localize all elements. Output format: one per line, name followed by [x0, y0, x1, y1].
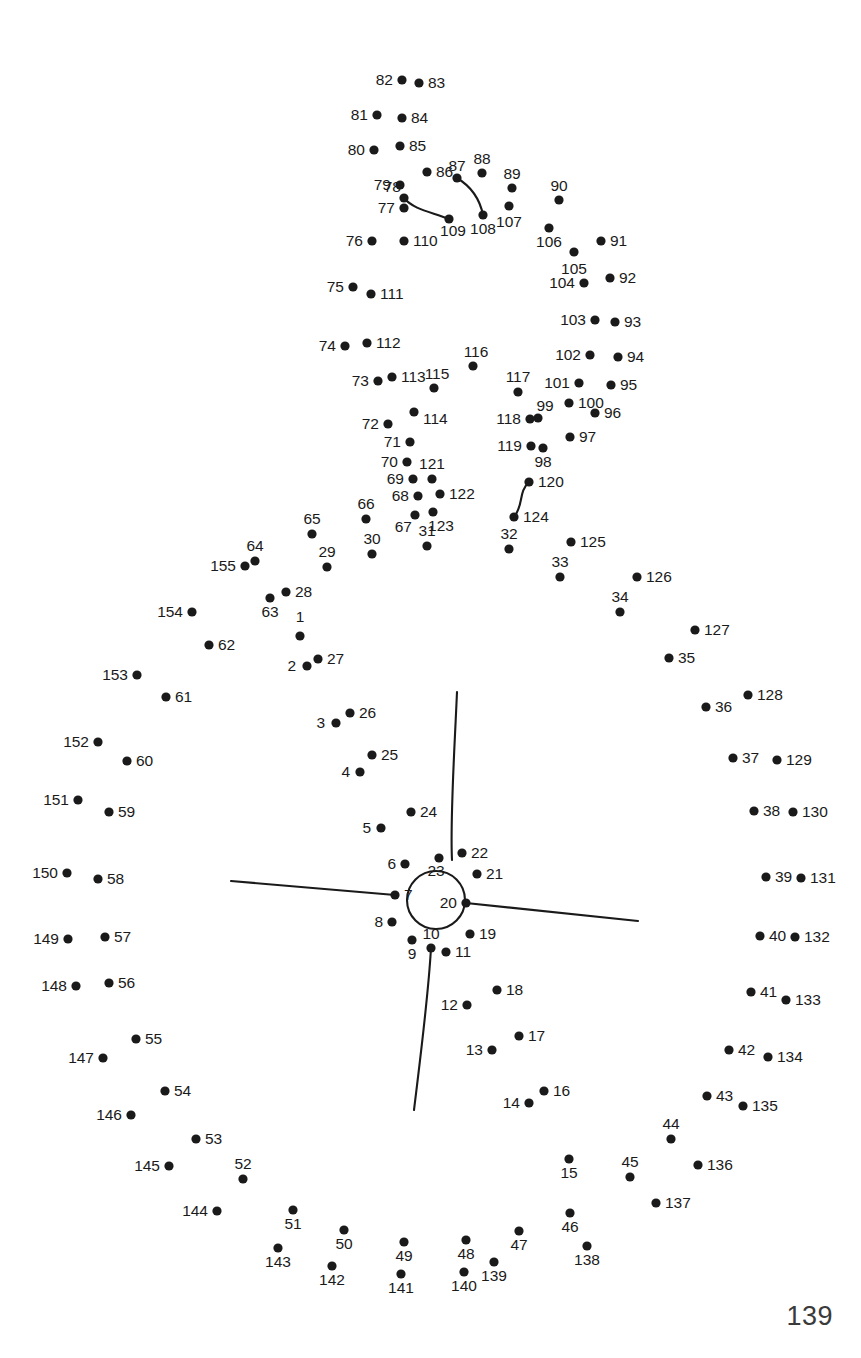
- dot-marker[interactable]: [554, 195, 563, 204]
- dot-marker[interactable]: [238, 1174, 247, 1183]
- dot-marker[interactable]: [413, 491, 422, 500]
- dot-marker[interactable]: [367, 549, 376, 558]
- dot-marker[interactable]: [399, 203, 408, 212]
- dot-marker[interactable]: [71, 981, 80, 990]
- dot-marker[interactable]: [191, 1134, 200, 1143]
- dot-marker[interactable]: [104, 978, 113, 987]
- dot-marker[interactable]: [693, 1160, 702, 1169]
- dot-marker[interactable]: [281, 587, 290, 596]
- dot-marker[interactable]: [422, 167, 431, 176]
- dot-marker[interactable]: [452, 173, 461, 182]
- puzzle-dot[interactable]: 23: [427, 853, 444, 879]
- dot-marker[interactable]: [605, 273, 614, 282]
- puzzle-dot[interactable]: 89: [503, 165, 520, 193]
- dot-marker[interactable]: [340, 341, 349, 350]
- puzzle-dot[interactable]: 3: [316, 714, 340, 731]
- puzzle-dot[interactable]: 42: [724, 1041, 755, 1058]
- dot-marker[interactable]: [441, 947, 450, 956]
- puzzle-dot[interactable]: 29: [318, 543, 335, 572]
- dot-marker[interactable]: [461, 898, 470, 907]
- puzzle-dot[interactable]: 32: [500, 525, 517, 554]
- puzzle-dot[interactable]: 73: [352, 372, 383, 389]
- dot-marker[interactable]: [564, 1154, 573, 1163]
- puzzle-dot[interactable]: 102: [555, 346, 594, 363]
- puzzle-dot[interactable]: 152: [63, 733, 102, 750]
- puzzle-dot[interactable]: 58: [93, 870, 124, 887]
- dot-marker[interactable]: [457, 848, 466, 857]
- puzzle-dot[interactable]: 52: [234, 1155, 251, 1184]
- dot-marker[interactable]: [345, 708, 354, 717]
- dot-marker[interactable]: [565, 432, 574, 441]
- dot-marker[interactable]: [625, 1172, 634, 1181]
- puzzle-dot[interactable]: 68: [392, 487, 423, 504]
- puzzle-dot[interactable]: 57: [100, 928, 131, 945]
- puzzle-dot[interactable]: 141: [388, 1269, 414, 1296]
- dot-marker[interactable]: [566, 537, 575, 546]
- puzzle-dot[interactable]: 148: [41, 977, 80, 994]
- dot-marker[interactable]: [63, 934, 72, 943]
- puzzle-dot[interactable]: 65: [303, 510, 320, 539]
- dot-marker[interactable]: [399, 236, 408, 245]
- dot-marker[interactable]: [288, 1205, 297, 1214]
- dot-marker[interactable]: [250, 556, 259, 565]
- puzzle-dot[interactable]: 106: [536, 223, 562, 250]
- puzzle-dot[interactable]: 59: [104, 803, 135, 820]
- dot-marker[interactable]: [514, 1226, 523, 1235]
- puzzle-dot[interactable]: 99: [533, 397, 553, 423]
- dot-marker[interactable]: [98, 1053, 107, 1062]
- dot-marker[interactable]: [400, 859, 409, 868]
- puzzle-dot[interactable]: 44: [662, 1115, 680, 1144]
- dot-marker[interactable]: [544, 223, 553, 232]
- dot-marker[interactable]: [724, 1045, 733, 1054]
- dot-marker[interactable]: [387, 372, 396, 381]
- dot-marker[interactable]: [104, 807, 113, 816]
- puzzle-dot[interactable]: 146: [96, 1106, 135, 1123]
- dot-marker[interactable]: [187, 607, 196, 616]
- puzzle-dot[interactable]: 22: [457, 844, 488, 861]
- dot-marker[interactable]: [743, 690, 752, 699]
- puzzle-dot[interactable]: 70: [381, 453, 412, 470]
- dot-marker[interactable]: [487, 1045, 496, 1054]
- puzzle-dot[interactable]: 82: [376, 71, 407, 88]
- dot-marker[interactable]: [295, 631, 304, 640]
- puzzle-dot[interactable]: 130: [788, 803, 828, 820]
- dot-marker[interactable]: [313, 654, 322, 663]
- puzzle-dot[interactable]: 139: [481, 1257, 507, 1284]
- puzzle-dot[interactable]: 140: [451, 1267, 477, 1294]
- puzzle-dot[interactable]: 100: [564, 394, 604, 411]
- dot-marker[interactable]: [395, 180, 404, 189]
- puzzle-dot[interactable]: 98: [534, 443, 551, 470]
- dot-marker[interactable]: [204, 640, 213, 649]
- puzzle-dot[interactable]: 37: [728, 749, 759, 766]
- dot-marker[interactable]: [565, 1208, 574, 1217]
- dot-marker[interactable]: [690, 625, 699, 634]
- dot-marker[interactable]: [414, 78, 423, 87]
- dot-marker[interactable]: [613, 352, 622, 361]
- puzzle-dot[interactable]: 149: [33, 930, 72, 947]
- puzzle-dot[interactable]: 55: [131, 1030, 162, 1047]
- puzzle-dot[interactable]: 60: [122, 752, 153, 769]
- dot-marker[interactable]: [160, 1086, 169, 1095]
- dot-marker[interactable]: [397, 113, 406, 122]
- dot-marker[interactable]: [738, 1101, 747, 1110]
- dot-marker[interactable]: [362, 338, 371, 347]
- dot-marker[interactable]: [610, 317, 619, 326]
- puzzle-dot[interactable]: 83: [414, 74, 445, 91]
- puzzle-dot[interactable]: 153: [102, 666, 141, 683]
- dot-marker[interactable]: [395, 141, 404, 150]
- puzzle-dot[interactable]: 34: [611, 588, 629, 617]
- dot-marker[interactable]: [399, 1237, 408, 1246]
- dot-marker[interactable]: [307, 529, 316, 538]
- puzzle-dot[interactable]: 40: [755, 927, 786, 944]
- dot-marker[interactable]: [426, 943, 435, 952]
- puzzle-dot[interactable]: 116: [464, 343, 489, 371]
- puzzle-dot[interactable]: 51: [284, 1205, 301, 1232]
- puzzle-dot[interactable]: 144: [182, 1202, 221, 1219]
- puzzle-dot[interactable]: 53: [191, 1130, 222, 1147]
- dot-marker[interactable]: [122, 756, 131, 765]
- puzzle-dot[interactable]: 49: [395, 1237, 412, 1264]
- dot-marker[interactable]: [212, 1206, 221, 1215]
- puzzle-dot[interactable]: 67: [395, 510, 420, 535]
- puzzle-dot[interactable]: 84: [397, 109, 428, 126]
- puzzle-dot[interactable]: 76: [346, 232, 377, 249]
